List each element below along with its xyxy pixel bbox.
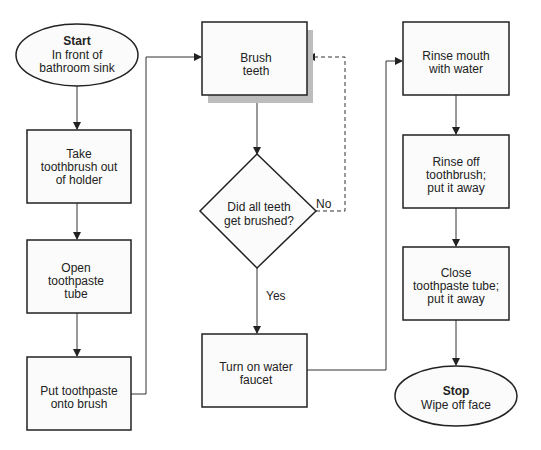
node-text-line: tube (64, 287, 88, 301)
node-text-line: Brush (240, 51, 271, 65)
node-text-line: teeth (243, 64, 270, 78)
node-text-line: onto brush (51, 397, 108, 411)
node-stop: Stop Wipe off face (395, 366, 517, 426)
node-text-line: Take (66, 147, 92, 161)
node-text-line: Close (441, 266, 472, 280)
node-stop-line: Wipe off face (421, 398, 491, 412)
node-start-line: In front of (52, 48, 103, 62)
node-text-line: Rinse mouth (422, 49, 489, 63)
node-turn-on-faucet: Turn on water faucet (202, 334, 307, 407)
node-start-line: bathroom sink (39, 61, 115, 75)
node-text-line: toothpaste tube; (413, 279, 499, 293)
edge-label-no: No (316, 197, 332, 211)
node-text-line: put it away (427, 181, 484, 195)
node-close-toothpaste: Close toothpaste tube; put it away (403, 247, 509, 320)
node-start: Start In front of bathroom sink (16, 24, 138, 86)
node-text-line: Turn on water (219, 360, 293, 374)
node-text-line: Open (61, 261, 90, 275)
node-brush-teeth: Brush teeth (202, 22, 313, 103)
node-text-line: put it away (427, 292, 484, 306)
node-text-line: toothbrush; (426, 168, 486, 182)
node-text-line: Put toothpaste (40, 384, 118, 398)
edge-label-yes: Yes (266, 289, 286, 303)
node-rinse-toothbrush: Rinse off toothbrush; put it away (403, 135, 509, 208)
node-text-line: faucet (240, 373, 273, 387)
edge-decision-brush-no (308, 57, 345, 211)
node-text-line: get brushed? (224, 214, 294, 228)
node-stop-title: Stop (443, 384, 470, 398)
node-text-line: Did all teeth (227, 200, 290, 214)
node-text-line: with water (428, 62, 483, 76)
node-text-line: of holder (56, 173, 103, 187)
edge-put-brush (131, 57, 201, 394)
node-text-line: toothpaste (48, 274, 104, 288)
node-put-toothpaste: Put toothpaste onto brush (27, 357, 131, 430)
flowchart-canvas: Start In front of bathroom sink Take too… (0, 0, 541, 450)
node-rinse-mouth: Rinse mouth with water (403, 22, 509, 95)
node-text-line: Rinse off (432, 155, 480, 169)
edge-faucet-rinse-mouth (307, 61, 402, 370)
node-start-title: Start (63, 34, 90, 48)
node-take-toothbrush: Take toothbrush out of holder (27, 130, 131, 203)
node-text-line: toothbrush out (41, 160, 118, 174)
node-open-toothpaste: Open toothpaste tube (27, 240, 131, 313)
node-decision: Did all teeth get brushed? (200, 154, 316, 268)
